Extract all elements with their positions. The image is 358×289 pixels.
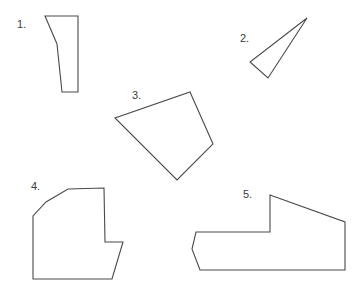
shape-1-label: 1.: [17, 19, 26, 30]
shape-2-polygon[interactable]: [250, 18, 307, 78]
shape-5-label: 5.: [243, 189, 252, 200]
shape-5-polygon[interactable]: [192, 195, 345, 270]
shape-1-polygon[interactable]: [45, 16, 78, 92]
shape-4-polygon[interactable]: [33, 188, 123, 279]
shapes-svg: [0, 0, 358, 289]
shape-3-label: 3.: [132, 90, 141, 101]
shape-4-label: 4.: [31, 181, 40, 192]
shape-2-label: 2.: [240, 33, 249, 44]
shape-3-polygon[interactable]: [115, 92, 213, 180]
shapes-figure-canvas: 1. 2. 3. 4. 5.: [0, 0, 358, 289]
